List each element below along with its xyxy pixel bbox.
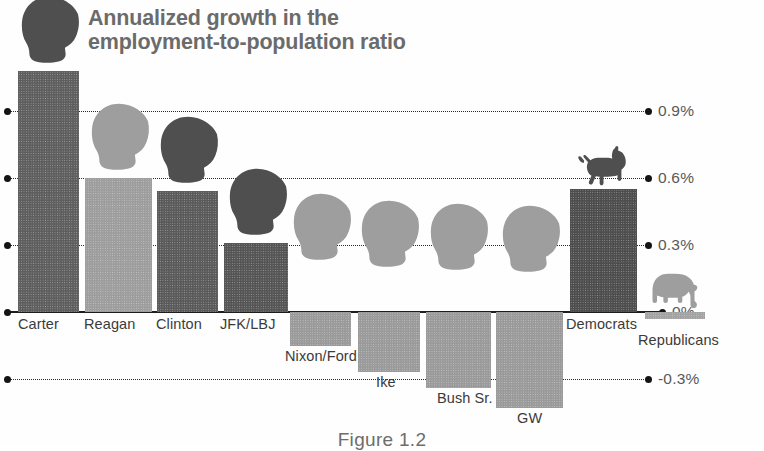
president-head-icon xyxy=(82,100,156,178)
y-axis-tick-label: 0.6% xyxy=(658,169,694,187)
president-head-icon xyxy=(493,202,567,280)
category-label-reagan: Reagan xyxy=(84,316,135,332)
bar-jfk-lbj[interactable] xyxy=(224,243,288,312)
category-label-carter: Carter xyxy=(18,316,59,332)
y-axis-tick-label: 0.3% xyxy=(658,236,694,254)
category-label-clinton: Clinton xyxy=(156,316,202,332)
bar-gw[interactable] xyxy=(496,312,563,408)
chart-title-line-2: employment-to-population ratio xyxy=(88,30,518,54)
y-axis-tick-label: -0.3% xyxy=(658,370,700,388)
category-label-ike: Ike xyxy=(376,374,396,390)
gridline-dot-left xyxy=(4,242,11,249)
bar-clinton[interactable] xyxy=(157,191,218,312)
figure-caption: Figure 1.2 xyxy=(0,429,764,451)
president-head-icon xyxy=(151,113,225,191)
category-label-republicans: Republicans xyxy=(638,332,719,348)
gridline-dot-right xyxy=(645,242,652,249)
gridline-dot-right xyxy=(645,376,652,383)
bar-ike[interactable] xyxy=(358,312,420,372)
president-head-icon xyxy=(352,197,426,275)
y-axis-tick-label: 0.9% xyxy=(658,102,694,120)
category-label-gw: GW xyxy=(517,410,542,426)
bar-democrats[interactable] xyxy=(570,189,637,312)
president-head-icon xyxy=(12,0,86,71)
president-head-icon xyxy=(220,165,294,243)
gridline-dot-left xyxy=(4,175,11,182)
gridline-dot-left xyxy=(4,309,11,316)
bar-bush-sr[interactable] xyxy=(426,312,491,388)
gridline-dot-left xyxy=(4,376,11,383)
category-label-bush-sr: Bush Sr. xyxy=(437,390,493,406)
bar-carter[interactable] xyxy=(18,71,79,312)
bar-nixon-ford[interactable] xyxy=(290,312,351,346)
gridline-dot-right xyxy=(645,108,652,115)
president-head-icon xyxy=(421,200,495,278)
gridline-dot-left xyxy=(4,108,11,115)
donkey-icon xyxy=(575,145,633,191)
gridline-dot-right xyxy=(645,175,652,182)
bar-reagan[interactable] xyxy=(85,178,152,312)
category-label-democrats: Democrats xyxy=(566,316,637,332)
category-label-jfk-lbj: JFK/LBJ xyxy=(220,316,276,332)
president-head-icon xyxy=(284,190,358,268)
elephant-icon xyxy=(648,270,704,314)
chart-title: Annualized growth in the employment-to-p… xyxy=(88,6,518,54)
category-label-nixon-ford: Nixon/Ford xyxy=(285,348,357,364)
chart-title-line-1: Annualized growth in the xyxy=(88,6,518,30)
